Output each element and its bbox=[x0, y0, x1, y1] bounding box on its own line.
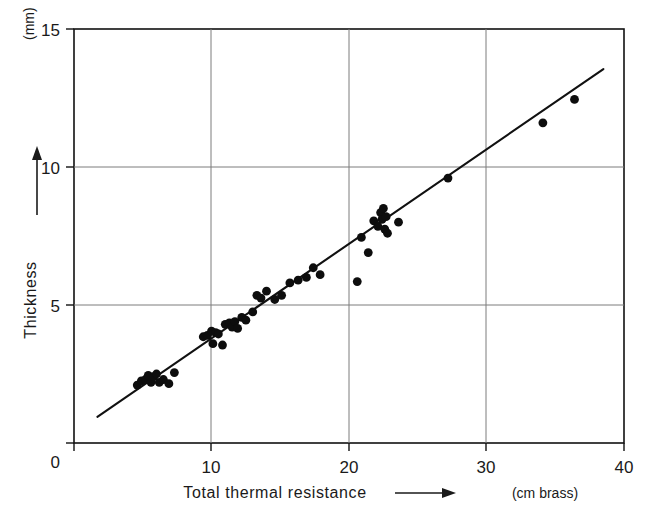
x-tick-label-40: 40 bbox=[615, 458, 634, 477]
data-point bbox=[152, 370, 161, 379]
chart-svg: 15 10 5 0 10 20 30 40 (mm) Thickness Tot… bbox=[0, 0, 654, 524]
data-point bbox=[262, 287, 271, 296]
data-point bbox=[353, 277, 362, 286]
data-point bbox=[218, 341, 227, 350]
scatter-plot-figure: 15 10 5 0 10 20 30 40 (mm) Thickness Tot… bbox=[0, 0, 654, 524]
x-tick-label-20: 20 bbox=[340, 458, 359, 477]
data-point bbox=[277, 291, 286, 300]
data-point bbox=[382, 212, 391, 221]
x-axis-unit-label: (cm brass) bbox=[512, 485, 578, 501]
data-point bbox=[379, 204, 388, 213]
y-tick-label-0: 0 bbox=[51, 453, 60, 472]
data-point bbox=[538, 118, 547, 127]
data-point bbox=[164, 379, 173, 388]
data-point bbox=[248, 308, 257, 317]
x-tick-label-10: 10 bbox=[202, 458, 221, 477]
x-axis-title: Total thermal resistance bbox=[183, 484, 366, 501]
y-tick-label-15: 15 bbox=[41, 21, 60, 40]
data-point bbox=[233, 324, 242, 333]
y-tick-label-5: 5 bbox=[51, 297, 60, 316]
data-point bbox=[302, 273, 311, 282]
data-point bbox=[285, 279, 294, 288]
y-axis-unit-label: (mm) bbox=[21, 7, 37, 40]
data-point bbox=[316, 270, 325, 279]
data-point bbox=[364, 248, 373, 257]
x-tick-label-30: 30 bbox=[477, 458, 496, 477]
data-point bbox=[208, 339, 217, 348]
data-point bbox=[257, 294, 266, 303]
data-point bbox=[214, 330, 223, 339]
data-point bbox=[383, 229, 392, 238]
data-point bbox=[294, 276, 303, 285]
data-point bbox=[444, 174, 453, 183]
data-point bbox=[570, 95, 579, 104]
data-point bbox=[394, 218, 403, 227]
data-point bbox=[357, 233, 366, 242]
data-point bbox=[241, 316, 250, 325]
data-point bbox=[170, 368, 179, 377]
y-tick-label-10: 10 bbox=[41, 159, 60, 178]
data-point bbox=[309, 263, 318, 272]
y-axis-title: Thickness bbox=[22, 261, 39, 338]
chart-background bbox=[0, 0, 654, 524]
